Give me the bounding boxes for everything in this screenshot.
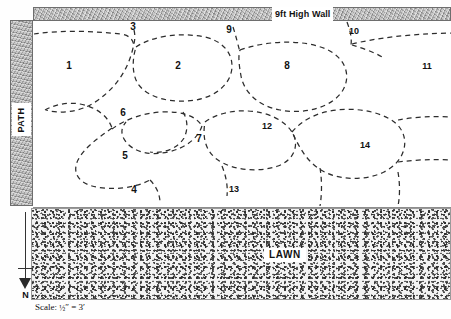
bed-number-6: 6	[120, 108, 126, 118]
north-arrow-head-icon	[19, 278, 31, 289]
bed-number-10: 10	[349, 26, 359, 36]
scale-equals: =	[71, 302, 76, 312]
planting-bed-area	[33, 21, 451, 208]
bed-number-11: 11	[422, 61, 432, 71]
bed-number-8: 8	[284, 61, 290, 71]
scale-ground-value: 3′	[79, 302, 85, 312]
lawn-label: LAWN	[264, 248, 306, 262]
north-arrow-shaft	[25, 212, 26, 280]
bed-number-14: 14	[360, 140, 370, 150]
scale-note: Scale: ½″ = 3′	[35, 302, 85, 313]
north-arrow: N	[13, 212, 39, 304]
wall-label: 9ft High Wall	[272, 7, 333, 21]
bed-number-2: 2	[175, 61, 181, 71]
bed-number-3: 3	[130, 22, 136, 32]
path-label-text: PATH	[17, 107, 27, 132]
bed-number-1: 1	[66, 61, 72, 71]
bed-number-7: 7	[196, 134, 202, 144]
bed-number-9: 9	[226, 25, 232, 35]
bed-number-12: 12	[262, 121, 272, 131]
bed-number-4: 4	[131, 185, 137, 195]
bed-number-13: 13	[229, 184, 239, 194]
garden-plan-drawing: 9ft High Wall PATH LAWN 1234567891011121…	[0, 0, 451, 319]
path-label: PATH	[12, 103, 31, 136]
wall-band	[33, 7, 451, 21]
scale-prefix: Scale:	[35, 302, 57, 312]
bed-number-5: 5	[122, 151, 128, 161]
north-arrow-crossbar	[18, 268, 33, 269]
north-label: N	[13, 290, 38, 300]
scale-drawing-unit: ″	[65, 302, 69, 312]
lawn-area	[31, 208, 451, 300]
